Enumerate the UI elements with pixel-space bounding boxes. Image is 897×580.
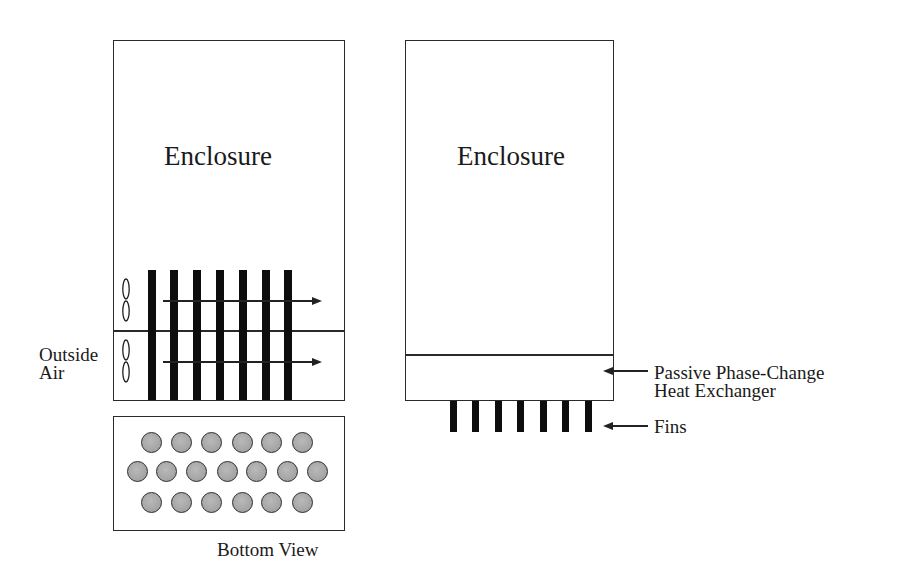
arrow-right-icon bbox=[312, 297, 322, 305]
tube-circle bbox=[141, 492, 162, 513]
fan-icon bbox=[120, 278, 132, 322]
heat-pipe-tube bbox=[193, 270, 201, 400]
tube-circle bbox=[277, 461, 298, 482]
heat-pipe-tube bbox=[170, 270, 178, 400]
heat-pipe-tube bbox=[284, 270, 292, 400]
fin bbox=[495, 401, 502, 432]
bottom-view-label: Bottom View bbox=[217, 541, 318, 559]
heat-exchanger-pointer-line bbox=[612, 370, 648, 372]
left-enclosure-label: Enclosure bbox=[164, 143, 272, 170]
tube-circle bbox=[292, 432, 313, 453]
tube-circle bbox=[232, 492, 253, 513]
tube-circle bbox=[201, 492, 222, 513]
fan-icon bbox=[120, 339, 132, 383]
tube-circle bbox=[141, 432, 162, 453]
fin bbox=[540, 401, 547, 432]
tube-circle bbox=[201, 432, 222, 453]
arrow-right-icon bbox=[312, 358, 322, 366]
tube-circle bbox=[261, 492, 282, 513]
airflow-arrow-line bbox=[163, 300, 313, 302]
heat-exchanger-label-line2: Heat Exchanger bbox=[654, 382, 776, 400]
fin bbox=[585, 401, 592, 432]
tube-circle bbox=[171, 432, 192, 453]
fins-label: Fins bbox=[654, 418, 687, 436]
fins-pointer-line bbox=[612, 425, 648, 427]
tube-circle bbox=[217, 461, 238, 482]
heat-pipe-tube bbox=[216, 270, 224, 400]
tube-circle bbox=[292, 492, 313, 513]
heat-pipe-tube bbox=[239, 270, 247, 400]
tube-circle bbox=[127, 461, 148, 482]
tube-circle bbox=[307, 461, 328, 482]
fin bbox=[450, 401, 457, 432]
fin bbox=[562, 401, 569, 432]
tube-circle bbox=[261, 432, 282, 453]
tube-circle bbox=[246, 461, 267, 482]
heat-pipe-tube bbox=[262, 270, 270, 400]
outside-air-label-line2: Air bbox=[39, 364, 64, 382]
airflow-arrow-line bbox=[163, 361, 313, 363]
right-enclosure bbox=[405, 40, 614, 401]
heat-exchanger-divider bbox=[405, 354, 614, 356]
tube-circle bbox=[171, 492, 192, 513]
tube-circle bbox=[186, 461, 207, 482]
fin bbox=[472, 401, 479, 432]
heat-pipe-tube bbox=[148, 270, 156, 400]
tube-circle bbox=[156, 461, 177, 482]
fin bbox=[517, 401, 524, 432]
tube-circle bbox=[232, 432, 253, 453]
right-enclosure-label: Enclosure bbox=[457, 143, 565, 170]
